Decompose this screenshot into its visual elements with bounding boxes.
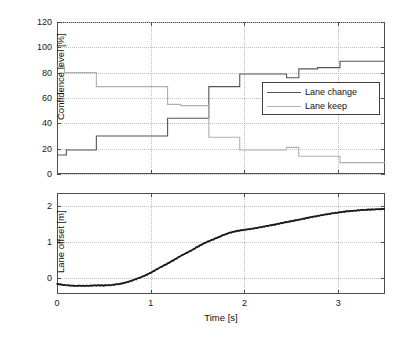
legend-label-lane-change: Lane change <box>305 87 357 97</box>
series-marker <box>220 236 221 237</box>
series-marker <box>207 241 208 242</box>
series-marker <box>151 271 152 272</box>
series-marker <box>112 284 113 285</box>
series-marker <box>90 285 91 286</box>
series-marker <box>377 209 378 210</box>
series-marker <box>251 228 252 229</box>
series-marker <box>115 284 116 285</box>
y-tick-label: 80 <box>26 68 52 78</box>
series-marker <box>345 211 346 212</box>
series-marker <box>373 209 374 210</box>
series-marker <box>187 252 188 253</box>
series-marker <box>175 258 176 259</box>
series-marker <box>203 242 204 243</box>
y-tick-label: 20 <box>26 144 52 154</box>
series-marker <box>170 261 171 262</box>
series-marker <box>339 211 340 212</box>
series-marker <box>70 285 71 286</box>
series-marker <box>182 254 183 255</box>
series-marker <box>264 226 265 227</box>
series-marker <box>211 239 212 240</box>
series-marker <box>166 264 167 265</box>
series-marker <box>305 217 306 218</box>
series-marker <box>209 241 210 242</box>
series-marker <box>318 215 319 216</box>
series-marker <box>184 254 185 255</box>
series-marker <box>232 231 233 232</box>
series-marker <box>366 210 367 211</box>
series-marker <box>133 279 134 280</box>
series-marker <box>86 285 87 286</box>
series-marker <box>146 274 147 275</box>
series-marker <box>124 282 125 283</box>
series-marker <box>96 285 97 286</box>
series-marker <box>307 217 308 218</box>
y-tick-label: 60 <box>26 93 52 103</box>
series-marker <box>145 274 146 275</box>
lane-offset-series-layer <box>57 193 385 294</box>
figure-canvas: 020406080100120 Confidence level [%] Lan… <box>0 0 403 337</box>
series-marker <box>265 226 266 227</box>
series-marker <box>105 284 106 285</box>
series-marker <box>286 222 287 223</box>
series-marker <box>291 220 292 221</box>
series-marker <box>243 229 244 230</box>
gridline-horizontal <box>57 174 385 175</box>
series-marker <box>276 223 277 224</box>
series-marker <box>210 240 211 241</box>
series-marker <box>167 262 168 263</box>
series-marker <box>82 285 83 286</box>
series-marker <box>136 279 137 280</box>
series-marker <box>206 242 207 243</box>
series-marker <box>308 217 309 218</box>
legend-swatch-lane-change <box>267 92 301 93</box>
x-tick-label: 2 <box>242 298 247 308</box>
series-marker <box>85 285 86 286</box>
series-marker <box>343 211 344 212</box>
series-marker <box>351 210 352 211</box>
series-marker <box>267 226 268 227</box>
x-tick-label: 3 <box>336 298 341 308</box>
series-marker <box>370 209 371 210</box>
series-marker <box>87 285 88 286</box>
series-marker <box>254 227 255 228</box>
series-marker <box>60 283 61 284</box>
series-marker <box>253 228 254 229</box>
series-marker <box>198 246 199 247</box>
series-marker <box>258 226 259 227</box>
series-marker <box>223 235 224 236</box>
series-marker <box>163 264 164 265</box>
series-marker <box>313 216 314 217</box>
series-marker <box>249 229 250 230</box>
series-marker <box>301 219 302 220</box>
series-marker <box>356 210 357 211</box>
series-marker <box>236 230 237 231</box>
series-marker <box>228 233 229 234</box>
series-marker <box>334 213 335 214</box>
series-marker <box>292 220 293 221</box>
series-marker <box>219 236 220 237</box>
series-marker <box>149 272 150 273</box>
series-marker <box>329 213 330 214</box>
series-marker <box>229 232 230 233</box>
series-marker <box>367 209 368 210</box>
series-marker <box>199 244 200 245</box>
series-marker <box>262 226 263 227</box>
series-marker <box>84 285 85 286</box>
series-marker <box>234 231 235 232</box>
y-tick-label: 40 <box>26 118 52 128</box>
y-tick-label: 1 <box>26 237 52 247</box>
series-marker <box>138 277 139 278</box>
series-marker <box>176 258 177 259</box>
series-marker <box>63 284 64 285</box>
series-marker <box>355 210 356 211</box>
series-marker <box>122 283 123 284</box>
series-marker <box>71 285 72 286</box>
series-marker <box>174 259 175 260</box>
series-marker <box>111 285 112 286</box>
series-marker <box>125 282 126 283</box>
series-marker <box>197 246 198 247</box>
series-marker <box>140 277 141 278</box>
series-marker <box>360 209 361 210</box>
series-marker <box>383 208 384 209</box>
